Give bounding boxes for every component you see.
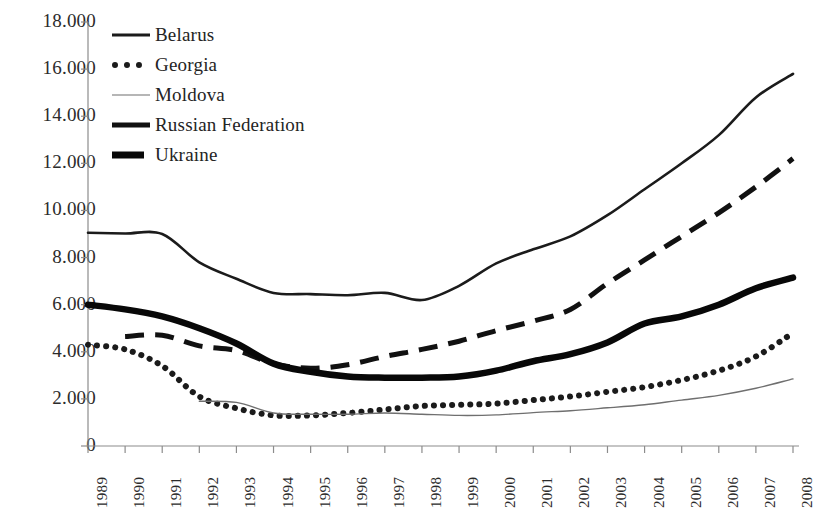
legend-item: Moldova [112,82,305,107]
legend-swatch-icon [112,58,150,72]
chart-legend: BelarusGeorgiaMoldovaRussian FederationU… [112,22,305,167]
legend-item-label: Ukraine [155,144,218,166]
legend-item-label: Moldova [155,84,225,106]
legend-item-label: Georgia [155,54,217,76]
series-line-moldova [199,379,793,416]
legend-item-label: Belarus [155,24,214,46]
legend-swatch-icon [112,118,150,132]
series-line-ukraine [88,278,793,378]
legend-item: Belarus [112,22,305,47]
legend-item: Georgia [112,52,305,77]
legend-item: Russian Federation [112,112,305,137]
legend-item-label: Russian Federation [155,114,305,136]
legend-swatch-icon [112,148,150,162]
legend-item: Ukraine [112,142,305,167]
legend-swatch-icon [112,28,150,42]
legend-swatch-icon [112,88,150,102]
